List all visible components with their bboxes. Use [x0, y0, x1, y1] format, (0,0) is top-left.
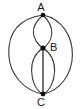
edge-outer-left-arc	[9, 15, 43, 94]
vertex-label-a: A	[0, 2, 82, 13]
vertex-dot-b	[40, 45, 45, 50]
vertex-dot-a	[41, 13, 46, 18]
graph-diagram: A B C	[0, 0, 82, 109]
edge-upper-lens-left-arc	[33, 15, 43, 48]
graph-canvas	[0, 0, 82, 109]
edge-lower-lens-right-arc	[43, 48, 55, 94]
edge-lower-lens-left-arc	[32, 48, 43, 94]
edge-outer-right-arc	[43, 15, 72, 94]
vertex-label-c: C	[0, 97, 82, 108]
vertex-label-b: B	[50, 42, 57, 53]
